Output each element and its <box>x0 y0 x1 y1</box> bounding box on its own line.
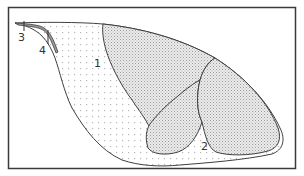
label-3: 3 <box>18 31 25 44</box>
label-4: 4 <box>39 44 46 57</box>
diagram-figure: 1 2 3 4 <box>0 0 304 176</box>
label-2: 2 <box>201 140 208 153</box>
label-1: 1 <box>94 57 101 70</box>
